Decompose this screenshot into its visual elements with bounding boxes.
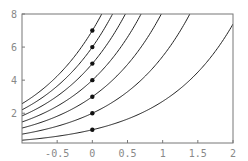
plot-frame [22, 14, 233, 143]
curve-4 [22, 0, 233, 122]
x-tick-label: 0.5 [118, 148, 136, 159]
data-points [90, 28, 94, 132]
data-point-7 [90, 28, 94, 32]
x-tick-label: 1.5 [189, 148, 207, 159]
data-point-3 [90, 94, 94, 98]
data-point-6 [90, 45, 94, 49]
curve-6 [22, 0, 233, 110]
curve-7 [22, 0, 233, 104]
curves [22, 0, 233, 140]
y-tick-label: 8 [11, 9, 17, 20]
y-tick-label: 2 [11, 108, 17, 119]
curve-5 [22, 0, 233, 116]
x-tick-label: 0 [89, 148, 95, 159]
data-point-5 [90, 61, 94, 65]
x-tick-label: 2 [230, 148, 236, 159]
y-tick-label: 6 [11, 42, 17, 53]
curve-3 [22, 0, 233, 128]
x-tick-label: 1 [160, 148, 166, 159]
y-tick-label: 4 [11, 75, 17, 86]
curve-1 [22, 24, 233, 140]
curve-2 [22, 0, 233, 134]
chart: -0.500.511.52 2468 [0, 0, 248, 161]
data-point-2 [90, 111, 94, 115]
x-tick-label: -0.5 [45, 148, 69, 159]
data-point-1 [90, 128, 94, 132]
data-point-4 [90, 78, 94, 82]
